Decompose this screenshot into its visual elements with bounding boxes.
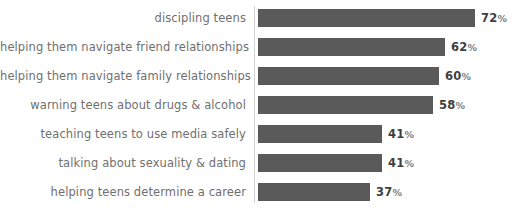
bar <box>258 38 445 56</box>
bar-value-number: 41 <box>388 127 404 141</box>
chart-row: warning teens about drugs & alcohol 58% <box>0 96 515 114</box>
category-label: talking about sexuality & dating <box>0 154 246 172</box>
percent-sign: % <box>404 129 414 140</box>
chart-row: teaching teens to use media safely 41% <box>0 125 515 143</box>
percent-sign: % <box>404 158 414 169</box>
chart-row: helping them navigate family relationshi… <box>0 67 515 85</box>
bar-value-label: 60% <box>445 67 471 85</box>
bar <box>258 67 439 85</box>
percent-sign: % <box>461 71 471 82</box>
bar-value-label: 62% <box>451 38 477 56</box>
percent-sign: % <box>467 42 477 53</box>
bar-value-number: 58 <box>439 98 455 112</box>
bar-chart: discipling teens 72% helping them naviga… <box>0 0 515 211</box>
bar-value-number: 41 <box>388 156 404 170</box>
category-label: discipling teens <box>0 9 246 27</box>
category-label: warning teens about drugs & alcohol <box>0 96 246 114</box>
percent-sign: % <box>392 187 402 198</box>
bar <box>258 125 382 143</box>
bar-value-label: 58% <box>439 96 465 114</box>
category-label: helping them navigate friend relationshi… <box>0 38 246 56</box>
chart-row: discipling teens 72% <box>0 9 515 27</box>
bar-value-label: 41% <box>388 154 414 172</box>
percent-sign: % <box>455 100 465 111</box>
bar-value-label: 72% <box>481 9 507 27</box>
bar-value-number: 62 <box>451 40 467 54</box>
bar <box>258 154 382 172</box>
category-label: helping them navigate family relationshi… <box>0 67 246 85</box>
chart-row: helping teens determine a career 37% <box>0 183 515 201</box>
bar-value-number: 60 <box>445 69 461 83</box>
bar <box>258 96 433 114</box>
bar <box>258 183 370 201</box>
percent-sign: % <box>497 13 507 24</box>
category-label: helping teens determine a career <box>0 183 246 201</box>
category-label: teaching teens to use media safely <box>0 125 246 143</box>
bar-value-number: 37 <box>376 185 392 199</box>
chart-row: helping them navigate friend relationshi… <box>0 38 515 56</box>
bar-value-number: 72 <box>481 11 497 25</box>
bar-value-label: 37% <box>376 183 402 201</box>
bar <box>258 9 475 27</box>
chart-row: talking about sexuality & dating 41% <box>0 154 515 172</box>
bar-value-label: 41% <box>388 125 414 143</box>
